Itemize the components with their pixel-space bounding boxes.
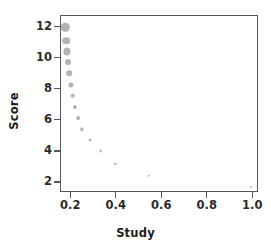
y-tick-mark <box>54 150 60 151</box>
x-tick-label: 0.4 <box>96 200 136 212</box>
plot-frame <box>60 15 258 192</box>
y-tick-label: 10 <box>12 52 52 64</box>
y-tick-label: 12 <box>12 21 52 33</box>
y-tick-mark <box>54 119 60 120</box>
x-tick-label: 0.2 <box>50 200 90 212</box>
scatter-plot-figure: 24681012 0.20.40.60.81.0 Score Study <box>0 0 271 252</box>
x-tick-label: 0.6 <box>141 200 181 212</box>
y-tick-label: 2 <box>12 176 52 188</box>
y-axis-title: Score <box>7 81 21 141</box>
y-tick-mark <box>54 181 60 182</box>
y-tick-mark <box>54 57 60 58</box>
x-tick-label: 0.8 <box>187 200 227 212</box>
y-tick-mark <box>54 26 60 27</box>
y-tick-label: 4 <box>12 145 52 157</box>
y-tick-mark <box>54 88 60 89</box>
x-tick-label: 1.0 <box>232 200 271 212</box>
x-axis-title: Study <box>0 226 271 240</box>
